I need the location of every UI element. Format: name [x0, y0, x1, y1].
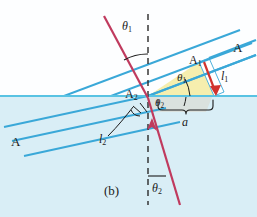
theta2-bottom-label: θ2 — [152, 182, 162, 196]
figure-caption: (b) — [104, 184, 119, 197]
theta1-wedge-label: θ1 — [177, 72, 186, 85]
theta1-top-label: θ1 — [122, 20, 132, 34]
wavefront-label-A-upper-right: A — [233, 41, 242, 54]
length-label-a: a — [182, 116, 188, 128]
theta2-wedge-label: θ2 — [155, 97, 164, 110]
water-region — [0, 96, 257, 217]
refraction-diagram: θ1 θ1 θ2 θ2 A A A1 A2 l1 l2 a (b) — [0, 0, 257, 217]
length-label-l1: l1 — [221, 70, 228, 84]
length-label-l2: l2 — [99, 133, 106, 147]
point-label-A2: A2 — [125, 88, 138, 102]
point-label-A1: A1 — [189, 54, 202, 68]
wavefront-label-A-lower-left: A — [11, 135, 20, 148]
